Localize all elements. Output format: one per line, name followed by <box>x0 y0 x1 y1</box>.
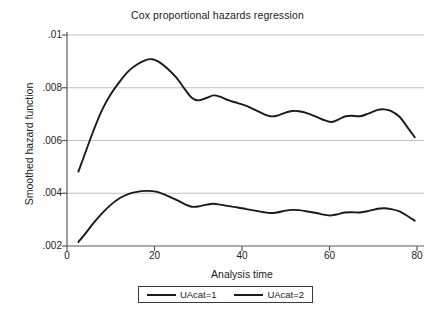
legend-line-swatch <box>234 294 263 296</box>
series-line-2 <box>78 191 414 242</box>
legend-line-swatch <box>147 294 176 296</box>
axis-lines <box>67 32 424 246</box>
legend-label: UAcat=2 <box>267 289 304 300</box>
gridlines <box>67 35 424 193</box>
legend-entry: UAcat=2 <box>234 289 304 300</box>
data-series-group <box>78 59 414 242</box>
legend-entry: UAcat=1 <box>147 289 217 300</box>
legend: UAcat=1UAcat=2 <box>138 286 313 303</box>
plot-area <box>0 0 435 315</box>
axis-ticks <box>62 35 417 251</box>
series-line-1 <box>78 59 414 171</box>
legend-label: UAcat=1 <box>180 289 217 300</box>
figure-caption <box>6 306 430 315</box>
figure-container: Cox proportional hazards regression Smoo… <box>0 0 435 315</box>
